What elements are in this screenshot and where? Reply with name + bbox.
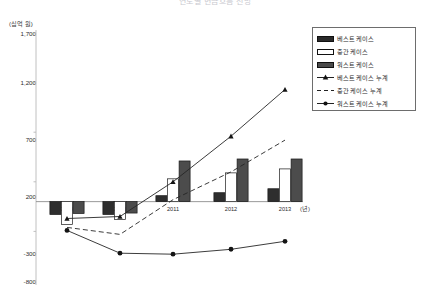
line-circle-marker-icon bbox=[317, 100, 334, 107]
legend-label: 중간 케이스 bbox=[337, 47, 368, 56]
chart-legend: 베스트 케이스 중간 케이스 워스트 케이스 베스트 케이스 누계 중간 케이스… bbox=[312, 27, 416, 111]
line-dashed-marker-icon bbox=[317, 87, 334, 94]
legend-label: 워스트 케이스 bbox=[337, 60, 374, 69]
legend-label: 워스트 케이스 누계 bbox=[337, 99, 387, 108]
bar-gray-swatch-icon bbox=[317, 62, 334, 68]
legend-item-worst-case: 워스트 케이스 bbox=[317, 58, 412, 71]
legend-label: 중간 케이스 누계 bbox=[337, 86, 382, 95]
chart-container: 연도별 현금흐름 전망 (십억 원) (년) 1,700 1,200 700 2… bbox=[0, 0, 430, 301]
legend-item-best-case: 베스트 케이스 bbox=[317, 32, 412, 45]
legend-label: 베스트 케이스 bbox=[337, 34, 374, 43]
legend-item-worst-cumulative: 워스트 케이스 누계 bbox=[317, 97, 412, 110]
bar-dark-swatch-icon bbox=[317, 36, 334, 42]
legend-item-mid-case: 중간 케이스 bbox=[317, 45, 412, 58]
bar-white-swatch-icon bbox=[317, 49, 334, 55]
line-triangle-marker-icon bbox=[317, 74, 334, 81]
legend-label: 베스트 케이스 누계 bbox=[337, 73, 387, 82]
legend-item-mid-cumulative: 중간 케이스 누계 bbox=[317, 84, 412, 97]
legend-item-best-cumulative: 베스트 케이스 누계 bbox=[317, 71, 412, 84]
